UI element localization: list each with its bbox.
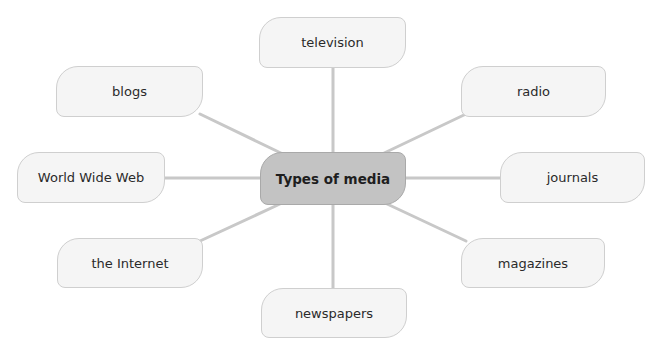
node-label: blogs — [112, 84, 147, 99]
node-label: journals — [547, 170, 599, 185]
node-television: television — [259, 17, 406, 68]
center-node-label: Types of media — [276, 171, 390, 187]
node-newspapers: newspapers — [261, 288, 407, 338]
connector-radio — [380, 114, 466, 155]
node-label: World Wide Web — [38, 170, 144, 185]
node-label: the Internet — [91, 256, 168, 271]
node-label: magazines — [498, 256, 568, 271]
connector-the-internet — [200, 203, 282, 241]
node-world-wide-web: World Wide Web — [17, 152, 165, 203]
node-the-internet: the Internet — [57, 238, 203, 288]
node-label: radio — [517, 84, 550, 99]
node-journals: journals — [500, 152, 645, 203]
node-radio: radio — [461, 66, 606, 117]
connector-magazines — [385, 203, 466, 241]
mind-map-diagram: Types of media television radio journals… — [0, 0, 666, 354]
connector-blogs — [200, 114, 285, 155]
node-blogs: blogs — [56, 66, 203, 117]
center-node-types-of-media: Types of media — [260, 152, 406, 205]
node-magazines: magazines — [461, 238, 605, 288]
node-label: television — [301, 35, 364, 50]
node-label: newspapers — [295, 306, 373, 321]
